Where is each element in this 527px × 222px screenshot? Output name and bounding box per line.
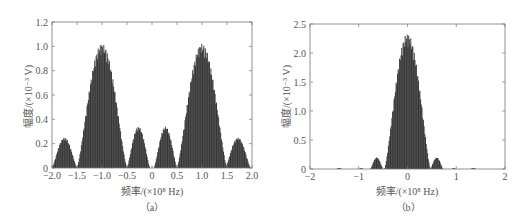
chart-panel-a: −2.0−1.5−1.0−0.500.51.01.52.000.20.40.60… bbox=[0, 0, 270, 222]
y-tick-label: 0.2 bbox=[36, 138, 49, 149]
y-tick-label: 0 bbox=[43, 163, 48, 174]
y-tick-label: 1.0 bbox=[294, 106, 307, 117]
x-tick-label: 1.0 bbox=[196, 170, 209, 181]
x-tick-label: 1 bbox=[454, 171, 459, 182]
x-tick-label: −0.5 bbox=[118, 170, 136, 181]
y-tick-label: 2.5 bbox=[294, 19, 307, 30]
y-tick-label: 1.0 bbox=[36, 41, 49, 52]
x-tick-label: −1.5 bbox=[68, 170, 86, 181]
y-tick-label: 1.5 bbox=[294, 77, 307, 88]
x-tick-label: −2 bbox=[305, 171, 316, 182]
y-tick-label: 1.2 bbox=[36, 17, 49, 28]
caption-b: （b） bbox=[388, 199, 428, 214]
x-tick-label: 0.5 bbox=[171, 170, 184, 181]
x-tick-label: 0 bbox=[150, 170, 155, 181]
x-tick-label: −1 bbox=[353, 171, 364, 182]
y-tick-label: 2.0 bbox=[294, 48, 307, 59]
x-tick-label: 2.0 bbox=[246, 170, 259, 181]
x-tick-label: 0 bbox=[405, 171, 410, 182]
y-axis-label-a: 幅度/(×10⁻³ V) bbox=[20, 65, 35, 128]
x-axis-label-b: 频率/(×10⁸ Hz) bbox=[357, 183, 457, 198]
caption-a: （a） bbox=[132, 199, 172, 214]
x-tick-label: −1.0 bbox=[93, 170, 111, 181]
chart-panel-b: −2−101200.51.01.52.02.5 幅度/(×10⁻³ V) 频率/… bbox=[270, 0, 527, 222]
y-tick-label: 0.6 bbox=[36, 90, 49, 101]
spectrum-fill bbox=[53, 44, 250, 168]
y-axis-label-b: 幅度/(×10⁻³ V) bbox=[278, 65, 293, 128]
x-axis-label-a: 频率/(×10⁸ Hz) bbox=[102, 183, 202, 198]
y-tick-label: 0.5 bbox=[294, 135, 307, 146]
x-tick-label: 1.5 bbox=[221, 170, 234, 181]
y-tick-label: 0.4 bbox=[36, 114, 49, 125]
y-tick-label: 0.8 bbox=[36, 65, 49, 76]
x-tick-label: 2 bbox=[503, 171, 508, 182]
y-tick-label: 0 bbox=[301, 164, 306, 175]
spectrum-fill bbox=[337, 35, 476, 169]
